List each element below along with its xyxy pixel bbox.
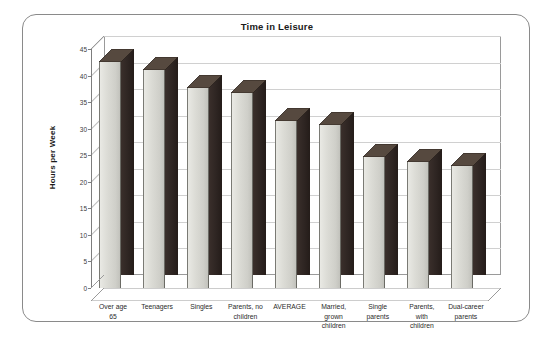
bar-front-face <box>143 70 165 288</box>
y-axis-tick-mark <box>88 155 91 156</box>
bar-top-face <box>187 75 222 88</box>
bar-side-face <box>253 80 266 275</box>
bar-side-face <box>429 149 442 275</box>
y-axis-tick-mark <box>88 208 91 209</box>
plot-floor <box>91 288 501 301</box>
y-axis-tick-mark <box>88 49 91 50</box>
y-axis-title: Hours per Week <box>48 103 57 213</box>
bar-top-face <box>451 153 486 166</box>
bar-side-face <box>209 75 222 275</box>
y-axis-tick-label: 5 <box>83 258 87 265</box>
bar-top-face <box>319 112 354 125</box>
x-axis-label-line: children <box>394 321 450 331</box>
bar-column[interactable] <box>451 153 473 288</box>
y-axis-tick-label: 30 <box>80 125 87 132</box>
bar-top-face <box>99 49 134 62</box>
bar-front-face <box>451 166 473 288</box>
x-axis-label-line: Dual-career <box>438 302 494 312</box>
y-axis-tick-label: 45 <box>80 46 87 53</box>
bar-front-face <box>187 88 209 288</box>
y-axis-line <box>91 49 92 288</box>
y-axis-tick-label: 15 <box>80 205 87 212</box>
x-axis-labels: Over age65TeenagersSinglesParents, nochi… <box>91 302 501 344</box>
y-axis-tick-mark <box>88 102 91 103</box>
chart-card: Time in Leisure Hours per Week 454035302… <box>22 14 530 322</box>
bar-top-face <box>143 57 178 70</box>
x-axis-label-line: 65 <box>85 312 141 322</box>
bar-side-face <box>297 108 310 275</box>
bar-side-face <box>385 144 398 275</box>
gridline-connector <box>90 36 104 50</box>
bar-column[interactable] <box>231 80 253 288</box>
x-axis-label-line: children <box>306 321 362 331</box>
y-axis-tick-label: 25 <box>80 152 87 159</box>
bar-front-face <box>363 157 385 288</box>
y-axis-tick-label: 10 <box>80 231 87 238</box>
y-axis-tick-label: 40 <box>80 72 87 79</box>
bar-front-face <box>319 125 341 288</box>
bar-front-face <box>99 62 121 288</box>
bar-side-face <box>473 153 486 275</box>
gridline <box>104 36 501 37</box>
bar-column[interactable] <box>99 49 121 288</box>
y-axis-tick-label: 20 <box>80 178 87 185</box>
bar-column[interactable] <box>363 144 385 288</box>
bar-top-face <box>363 144 398 157</box>
y-axis-tick-mark <box>88 129 91 130</box>
bar-column[interactable] <box>143 57 165 288</box>
plot-area: 454035302520151050 <box>91 49 488 288</box>
x-axis-label-line: children <box>217 312 273 322</box>
bar-side-face <box>165 57 178 275</box>
bar-top-face <box>407 149 442 162</box>
bar-column[interactable] <box>319 112 341 288</box>
chart-title: Time in Leisure <box>23 21 531 32</box>
x-axis-label: Dual-careerparents <box>438 302 494 321</box>
y-axis-tick-mark <box>88 235 91 236</box>
bar-top-face <box>275 108 310 121</box>
y-axis-tick-label: 35 <box>80 99 87 106</box>
bar-column[interactable] <box>187 75 209 288</box>
y-axis-tick-mark <box>88 182 91 183</box>
bar-front-face <box>407 162 429 288</box>
bar-front-face <box>231 93 253 288</box>
bar-column[interactable] <box>407 149 429 288</box>
y-axis-tick-mark <box>88 76 91 77</box>
bar-column[interactable] <box>275 108 297 288</box>
bar-top-face <box>231 80 266 93</box>
bar-front-face <box>275 121 297 288</box>
bar-side-face <box>121 49 134 275</box>
y-axis-tick-mark <box>88 261 91 262</box>
y-axis-tick-label: 0 <box>83 285 87 292</box>
x-axis-label-line: parents <box>438 312 494 322</box>
bar-side-face <box>341 112 354 275</box>
